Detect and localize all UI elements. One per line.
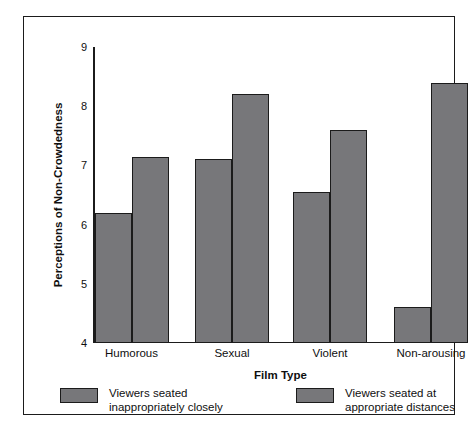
y-tick-label: 9 [81,42,87,53]
bar [394,307,431,343]
legend-item-label: Viewers seated at appropriate distances [345,387,455,414]
x-axis-title: Film Type [93,369,468,381]
bar [293,192,330,343]
x-tick-label: Humorous [105,347,158,359]
legend: Viewers seated inappropriately closely V… [60,387,470,425]
bar [195,159,232,343]
y-tick-label: 7 [81,160,87,171]
plot-area: 456789 HumorousSexualViolentNon-arousing… [93,47,468,343]
y-tick-label: 5 [81,278,87,289]
bar [232,94,269,343]
legend-swatch-icon [60,388,98,403]
y-tick-label: 6 [81,219,87,230]
chart-frame: Perceptions of Non-Crowdedness 456789 Hu… [23,16,455,415]
bar [132,157,169,343]
bar [330,130,367,343]
y-tick-label: 8 [81,101,87,112]
y-axis-title: Perceptions of Non-Crowdedness [50,47,66,343]
legend-item-appropriate: Viewers seated at appropriate distances [296,387,455,414]
bar [95,213,132,343]
x-tick-label: Violent [313,347,348,359]
legend-item-closely: Viewers seated inappropriately closely [60,387,223,414]
figure: Perceptions of Non-Crowdedness 456789 Hu… [0,0,475,445]
legend-item-label: Viewers seated inappropriately closely [109,387,223,414]
y-tick-label: 4 [81,338,87,349]
x-tick-label: Non-arousing [396,347,465,359]
x-tick-label: Sexual [214,347,249,359]
bar [431,83,468,343]
legend-swatch-icon [296,388,334,403]
